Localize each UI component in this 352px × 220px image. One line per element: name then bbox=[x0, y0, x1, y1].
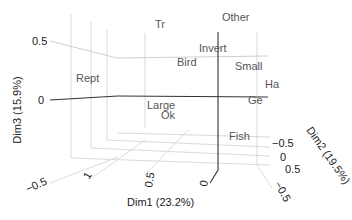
z-tick-05: 0.5 bbox=[32, 35, 47, 47]
x-tick-0: 0 bbox=[197, 179, 210, 187]
point-label-ge: Ge bbox=[248, 94, 263, 106]
point-label-small: Small bbox=[235, 60, 263, 72]
grid-line bbox=[145, 130, 188, 175]
dim1-axis-title: Dim1 (23.2%) bbox=[127, 196, 194, 208]
point-label-other: Other bbox=[222, 11, 250, 23]
point-label-fish: Fish bbox=[229, 130, 250, 142]
point-label-ha: Ha bbox=[265, 78, 280, 90]
point-label-tr: Tr bbox=[155, 18, 165, 30]
x-tick-1: 1 bbox=[80, 170, 93, 181]
x-tick-05: 0.5 bbox=[142, 171, 156, 188]
grid-line bbox=[257, 165, 272, 188]
y-tick-05: 0.5 bbox=[285, 163, 300, 175]
y-tick-m05: −0.5 bbox=[272, 137, 294, 149]
grid-line bbox=[50, 157, 118, 183]
y-tick-m05b: −0.5 bbox=[272, 179, 293, 204]
point-label-ok: Ok bbox=[161, 109, 176, 121]
grid-line bbox=[91, 148, 270, 156]
dim3-axis-title: Dim3 (15.9%) bbox=[11, 76, 23, 143]
z-tick-0: 0 bbox=[38, 94, 44, 106]
dim3-zero-line-left bbox=[50, 96, 118, 100]
y-tick-0: 0 bbox=[280, 151, 286, 163]
dim2-axis-title: Dim2 (19.5%) bbox=[304, 124, 352, 186]
point-label-bird: Bird bbox=[177, 56, 197, 68]
z-tick-m05: −0.5 bbox=[24, 175, 49, 195]
chart-canvas: Tr Other Invert Bird Small Rept Ha Large… bbox=[0, 0, 352, 220]
dim1-zero-line bbox=[210, 32, 218, 183]
point-label-invert: Invert bbox=[199, 42, 227, 54]
z-05-grid-line bbox=[50, 41, 268, 58]
dim3-zero-line bbox=[118, 96, 268, 97]
point-label-rept: Rept bbox=[76, 72, 99, 84]
